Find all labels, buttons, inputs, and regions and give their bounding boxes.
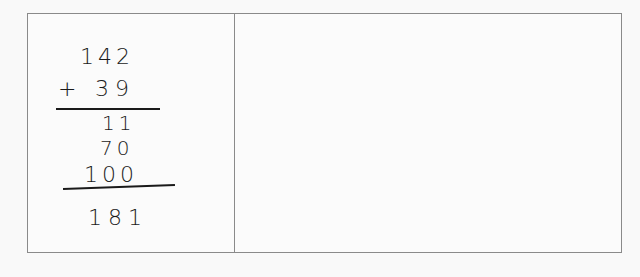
partial-sum-hundreds: 100 [84, 164, 138, 186]
partial-sum-ones: 11 [102, 113, 135, 133]
empty-cell [235, 14, 621, 252]
sum-line-1 [56, 108, 160, 110]
addend-2: 39 [95, 78, 135, 100]
operator-plus: + [58, 78, 80, 100]
partial-sum-tens: 70 [100, 138, 133, 158]
work-cell: 142 + 39 11 70 100 181 [28, 14, 235, 252]
addend-1: 142 [80, 46, 134, 68]
worksheet-table: 142 + 39 11 70 100 181 [27, 13, 622, 253]
total-sum: 181 [88, 207, 148, 229]
